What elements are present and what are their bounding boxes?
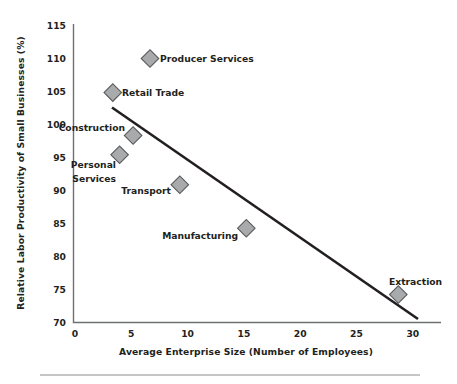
data-point-producer-services — [141, 50, 159, 68]
data-label-transport: Transport — [121, 185, 171, 196]
y-tick-label-85: 85 — [53, 218, 66, 229]
data-point-construction — [124, 127, 142, 145]
y-tick-label-95: 95 — [53, 152, 66, 163]
x-tick-label-15: 15 — [238, 328, 251, 339]
x-tick-label-20: 20 — [294, 328, 307, 339]
trend-line — [112, 108, 418, 320]
x-tick-label-5: 5 — [128, 328, 134, 339]
data-label-manufacturing: Manufacturing — [162, 230, 238, 241]
y-tick-label-70: 70 — [53, 317, 66, 328]
y-tick-label-105: 105 — [47, 86, 66, 97]
data-label-producer-services: Producer Services — [160, 53, 254, 64]
x-tick-label-30: 30 — [406, 328, 419, 339]
data-label-personal-services-line2: Services — [72, 173, 116, 184]
y-tick-label-90: 90 — [53, 185, 66, 196]
data-label-personal-services-line1: Personal — [71, 159, 116, 170]
x-tick-label-0: 0 — [72, 328, 78, 339]
scatter-chart-figure: 115 110 105 100 95 90 85 80 75 70 0 5 10… — [0, 0, 457, 384]
y-tick-label-110: 110 — [47, 53, 66, 64]
axis-lines — [74, 24, 442, 323]
data-point-manufacturing — [238, 220, 256, 238]
y-tick-label-80: 80 — [53, 251, 66, 262]
data-label-construction: Construction — [59, 122, 125, 133]
data-label-extraction: Extraction — [389, 276, 442, 287]
data-label-retail-trade: Retail Trade — [122, 87, 184, 98]
x-tick-label-25: 25 — [350, 328, 363, 339]
x-axis-title: Average Enterprise Size (Number of Emplo… — [119, 346, 373, 357]
y-axis-title: Relative Labor Productivity of Small Bus… — [15, 36, 26, 310]
y-tick-label-115: 115 — [47, 20, 66, 31]
data-point-transport — [171, 176, 189, 194]
chart-canvas: 115 110 105 100 95 90 85 80 75 70 0 5 10… — [0, 0, 457, 384]
x-tick-label-10: 10 — [181, 328, 194, 339]
y-tick-label-75: 75 — [53, 284, 66, 295]
data-point-retail-trade — [104, 84, 122, 102]
